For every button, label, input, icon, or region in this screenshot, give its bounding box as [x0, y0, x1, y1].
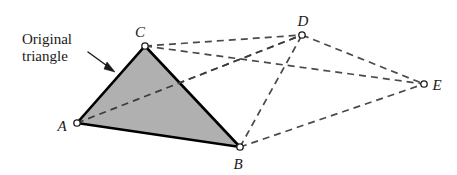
vertex-label-B: B: [233, 156, 242, 172]
vertex-marker-A: [74, 120, 80, 126]
dashed-edge-BD: [240, 35, 302, 147]
vertex-marker-B: [237, 144, 243, 150]
figure-container: A B C D E Original triangle: [0, 0, 457, 175]
dashed-edge-BE: [240, 84, 424, 147]
vertex-label-A: A: [56, 118, 67, 134]
vertex-label-E: E: [431, 77, 441, 93]
vertex-label-D: D: [297, 13, 309, 29]
triangle-diagram: A B C D E Original triangle: [0, 0, 457, 175]
original-triangle-callout: Original triangle: [22, 31, 115, 72]
vertex-marker-E: [421, 81, 427, 87]
dashed-edge-DE: [302, 35, 424, 84]
vertex-marker-D: [299, 32, 305, 38]
pointer-arrow-head: [104, 62, 115, 72]
vertex-label-C: C: [135, 24, 146, 40]
callout-line-1: Original: [22, 31, 72, 47]
callout-line-2: triangle: [22, 48, 68, 64]
vertex-marker-C: [142, 43, 148, 49]
dashed-edge-CE: [145, 46, 424, 84]
